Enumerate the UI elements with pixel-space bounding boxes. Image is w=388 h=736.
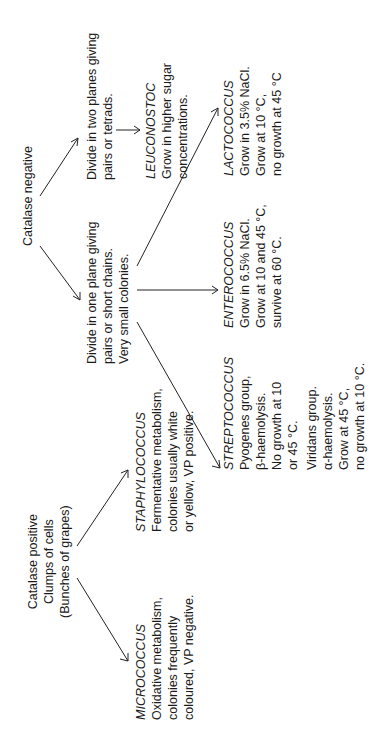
text-line: colonies usually white xyxy=(165,388,181,532)
text-line: or 45 °C. xyxy=(285,357,301,470)
text-line: or yellow, VP positive. xyxy=(181,388,197,532)
text-line: no growth at 45 °C xyxy=(269,66,285,176)
text-line: Grow in higher sugar xyxy=(159,63,175,179)
text-line: Grow in 3.5% NaCl. xyxy=(237,66,253,176)
genus-enterococcus: ENTEROCOCCUS xyxy=(221,204,237,328)
one-plane-box: Divide in one plane giving pairs or shor… xyxy=(84,222,132,364)
text-line: coloured, VP negative. xyxy=(181,594,197,720)
micrococcus-box: MICROCOCCUS Oxidative metabolism, coloni… xyxy=(133,594,197,720)
genus-staphylococcus: STAPHYLOCOCCUS xyxy=(133,388,149,532)
text-line: No growth at 10 xyxy=(269,357,285,470)
text-line: Clumps of cells xyxy=(41,505,57,618)
text-line: survive at 60 °C. xyxy=(269,204,285,328)
catalase-negative-label: Catalase negative xyxy=(20,146,36,246)
text-line: colonies frequently xyxy=(165,594,181,720)
genus-lactococcus: LACTOCOCCUS xyxy=(221,66,237,176)
text-line: Very small colonies. xyxy=(116,222,132,364)
bacteria-classification-diagram: Catalase negative Divide in two planes g… xyxy=(0,0,388,736)
text-line: pairs or tetrads. xyxy=(100,33,116,180)
genus-leuconostoc: LEUCONOSTOC xyxy=(143,63,159,179)
catalase-positive-box: Catalase positive Clumps of cells (Bunch… xyxy=(25,505,73,618)
text-line: Grow in 6.5% NaCl. xyxy=(237,204,253,328)
text-line: Grow at 10 and 45 °C, xyxy=(253,204,269,328)
genus-micrococcus: MICROCOCCUS xyxy=(133,594,149,720)
text-line: β-haemolysis. xyxy=(253,357,269,470)
text-line: (Bunches of grapes) xyxy=(57,505,73,618)
text-line: Oxidative metabolism, xyxy=(149,594,165,720)
text-line: α-haemolysis. xyxy=(320,363,336,470)
text-line: pairs or short chains. xyxy=(100,222,116,364)
leuconostoc-box: LEUCONOSTOC Grow in higher sugar concent… xyxy=(143,63,191,179)
lactococcus-box: LACTOCOCCUS Grow in 3.5% NaCl. Grow at 1… xyxy=(221,66,285,176)
text-line: Grow at 10 °C, xyxy=(253,66,269,176)
genus-streptococcus: STREPTOCOCCUS xyxy=(221,357,237,470)
catalase-negative-title: Catalase negative xyxy=(20,146,36,246)
staphylococcus-box: STAPHYLOCOCCUS Fermentative metabolism, … xyxy=(133,388,197,532)
enterococcus-box: ENTEROCOCCUS Grow in 6.5% NaCl. Grow at … xyxy=(221,204,285,328)
text-line: no growth at 10 °C. xyxy=(352,363,368,470)
viridans-group-box: Viridans group. α-haemolysis. Grow at 45… xyxy=(304,363,368,470)
text-line: Pyogenes group, xyxy=(237,357,253,470)
text-line: Divide in two planes giving xyxy=(84,33,100,180)
text-line: concentrations. xyxy=(175,63,191,179)
text-line: Fermentative metabolism, xyxy=(149,388,165,532)
text-line: Catalase positive xyxy=(25,505,41,618)
two-planes-box: Divide in two planes giving pairs or tet… xyxy=(84,33,116,180)
streptococcus-box: STREPTOCOCCUS Pyogenes group, β-haemolys… xyxy=(221,357,301,470)
text-line: Grow at 45 °C, xyxy=(336,363,352,470)
text-line: Viridans group. xyxy=(304,363,320,470)
text-line: Divide in one plane giving xyxy=(84,222,100,364)
